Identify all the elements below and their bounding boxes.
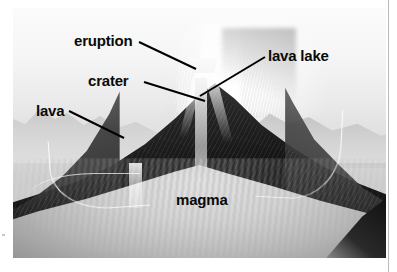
label-crater: crater <box>88 73 129 88</box>
leader-lines <box>0 0 397 272</box>
leader-line-eruption <box>139 42 196 69</box>
label-lava: lava <box>36 103 64 118</box>
label-eruption: eruption <box>74 33 132 48</box>
leader-line-lava-lake <box>200 57 265 96</box>
page-root: eruption crater lava lake lava magma <box>0 0 397 272</box>
leader-line-crater <box>144 82 205 101</box>
leader-line-lava <box>69 111 124 138</box>
label-lava-lake: lava lake <box>268 48 329 63</box>
annotation-layer: eruption crater lava lake lava magma <box>0 0 397 272</box>
label-magma: magma <box>176 192 228 207</box>
